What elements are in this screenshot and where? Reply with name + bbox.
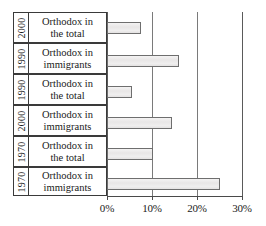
bar-1970-orthodox-in-the-total (107, 148, 153, 160)
x-tick-mark-30 (242, 196, 243, 200)
bar-1990-orthodox-in-the-total (107, 86, 132, 98)
row-category-cell: Orthodox in immigrants (29, 44, 106, 73)
row-year-label: 1970 (16, 141, 27, 162)
row-year-label: 1990 (16, 79, 27, 100)
bar-2000-orthodox-in-the-total (107, 22, 141, 34)
row-year-cell: 2000 (14, 13, 29, 42)
chart-row: 2000 Orthodox in the total (13, 12, 266, 43)
row-year-cell: 1970 (14, 137, 29, 166)
row-year-label: 1990 (16, 48, 27, 69)
row-category-line-1: Orthodox in (42, 140, 93, 152)
bar-1970-orthodox-in-immigrants (107, 178, 220, 190)
row-category-cell: Orthodox in the total (29, 137, 106, 166)
row-year-cell: 1990 (14, 44, 29, 73)
row-category-cell: Orthodox in immigrants (29, 168, 106, 195)
row-label-box: 1970 Orthodox in immigrants (13, 167, 107, 196)
x-tick-label-0: 0% (87, 202, 127, 214)
row-year-label: 1970 (16, 171, 27, 192)
row-category-line-2: the total (50, 90, 84, 102)
chart-row: 1970 Orthodox in immigrants (13, 167, 266, 196)
x-tick-mark-20 (197, 196, 198, 200)
x-tick-mark-10 (152, 196, 153, 200)
horizontal-bar-chart: 0% 10% 20% 30% 2000 Orthodox in the tota… (0, 0, 266, 226)
row-year-cell: 1990 (14, 75, 29, 104)
chart-row: 2000 Orthodox in immigrants (13, 105, 266, 136)
row-category-line-1: Orthodox in (42, 78, 93, 90)
row-category-line-1: Orthodox in (42, 170, 93, 182)
row-category-line-2: the total (50, 152, 84, 164)
row-year-cell: 2000 (14, 106, 29, 135)
chart-row: 1970 Orthodox in the total (13, 136, 266, 167)
chart-row: 1990 Orthodox in the total (13, 74, 266, 105)
x-tick-label-20: 20% (177, 202, 217, 214)
row-year-label: 2000 (16, 110, 27, 131)
row-category-cell: Orthodox in immigrants (29, 106, 106, 135)
row-category-line-2: the total (50, 28, 84, 40)
x-tick-mark-0 (107, 196, 108, 200)
row-year-label: 2000 (16, 17, 27, 38)
row-label-box: 1970 Orthodox in the total (13, 136, 107, 167)
row-category-line-2: immigrants (44, 121, 92, 133)
row-category-cell: Orthodox in the total (29, 13, 106, 42)
row-label-box: 2000 Orthodox in immigrants (13, 105, 107, 136)
bar-1990-orthodox-in-immigrants (107, 55, 179, 67)
row-year-cell: 1970 (14, 168, 29, 195)
row-label-box: 1990 Orthodox in immigrants (13, 43, 107, 74)
chart-row: 1990 Orthodox in immigrants (13, 43, 266, 74)
x-axis-baseline (107, 196, 243, 197)
row-category-line-2: immigrants (44, 182, 92, 194)
row-category-line-1: Orthodox in (42, 47, 93, 59)
row-category-cell: Orthodox in the total (29, 75, 106, 104)
x-tick-label-10: 10% (132, 202, 172, 214)
row-category-line-2: immigrants (44, 59, 92, 71)
row-category-line-1: Orthodox in (42, 109, 93, 121)
x-tick-label-30: 30% (222, 202, 262, 214)
row-category-line-1: Orthodox in (42, 16, 93, 28)
row-label-box: 1990 Orthodox in the total (13, 74, 107, 105)
row-label-box: 2000 Orthodox in the total (13, 12, 107, 43)
bar-2000-orthodox-in-immigrants (107, 117, 172, 129)
